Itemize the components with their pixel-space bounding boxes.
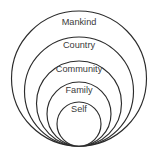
ring-label-family: Family xyxy=(65,85,92,95)
ring-label-country: Country xyxy=(63,40,96,50)
diagram-canvas: Mankind Country Community Family Self xyxy=(0,0,157,167)
ring-label-community: Community xyxy=(56,64,103,74)
nested-circles-diagram: Mankind Country Community Family Self xyxy=(0,0,157,167)
ring-label-mankind: Mankind xyxy=(62,17,97,27)
ring-label-self: Self xyxy=(71,104,87,114)
